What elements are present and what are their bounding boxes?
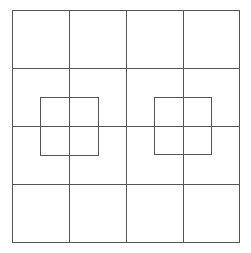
grid-lines (12, 10, 240, 243)
grid-diagram (0, 0, 251, 253)
